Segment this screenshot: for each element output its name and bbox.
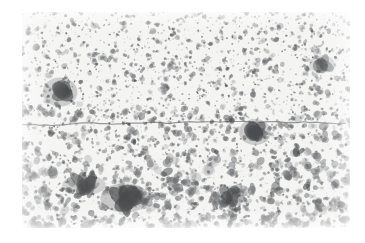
micrograph-plate [22, 12, 350, 228]
figure-caption [0, 231, 365, 243]
micrograph-image [22, 12, 350, 228]
paper-margin-left [0, 0, 22, 243]
paper-margin-right [350, 0, 365, 243]
micrograph-figure [0, 0, 365, 243]
paper-margin-top [0, 0, 365, 12]
